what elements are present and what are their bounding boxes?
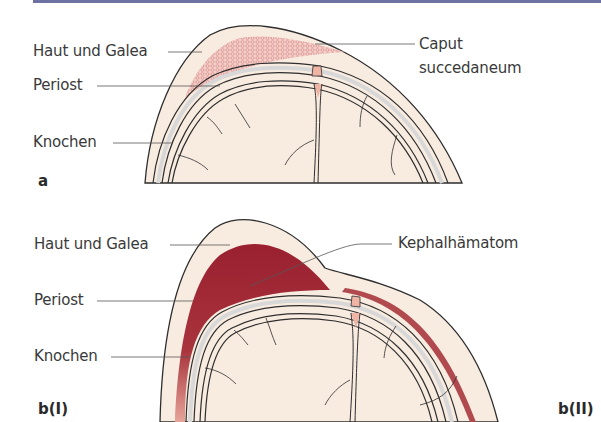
- panel-a-drawing: [97, 26, 462, 183]
- label-kephalhaematom: Kephalhämatom: [398, 234, 518, 252]
- label-periost-a: Periost: [33, 76, 83, 94]
- panel-label-b-ii: b(II): [558, 400, 594, 418]
- label-knochen-a: Knochen: [33, 133, 97, 151]
- label-caput: Caput: [419, 35, 463, 53]
- label-periost-b: Periost: [34, 291, 84, 309]
- label-succedaneum: succedaneum: [419, 59, 521, 77]
- suture-a: [312, 66, 322, 76]
- label-haut-und-galea-b: Haut und Galea: [34, 235, 149, 253]
- panel-label-b-i: b(I): [38, 400, 68, 418]
- label-knochen-b: Knochen: [34, 347, 98, 365]
- label-haut-und-galea-a: Haut und Galea: [33, 42, 148, 60]
- panel-label-a: a: [38, 172, 48, 190]
